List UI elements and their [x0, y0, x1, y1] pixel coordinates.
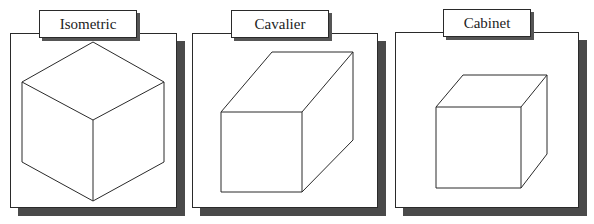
cavalier-cube: [221, 52, 353, 192]
isometric-cube: [22, 42, 164, 201]
cube-drawings: [0, 0, 594, 224]
cabinet-cube: [436, 75, 547, 188]
